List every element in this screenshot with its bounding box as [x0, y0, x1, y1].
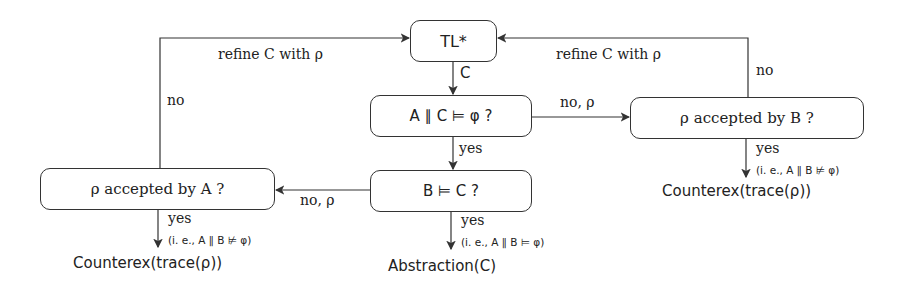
node-check-ac: A ∥ C ⊨ φ ?: [370, 95, 532, 137]
outcome-counterex-left: Counterex(trace(ρ)): [73, 254, 222, 272]
outcome-abstraction: Abstraction(C): [388, 257, 496, 275]
node-label: TL*: [440, 32, 467, 51]
edge-label-a-no: no: [167, 92, 184, 108]
node-label: ρ accepted by B ?: [680, 109, 814, 127]
edge-label-refine-right: refine C with ρ: [556, 46, 661, 62]
edge-label-b-no: no, ρ: [300, 192, 335, 208]
edge-label-bc-yes: yes: [461, 212, 484, 228]
edge-label-c: C: [460, 64, 470, 82]
edge-note-bacc-yes: (i. e., A ∥ B ⊭ φ): [756, 164, 839, 176]
node-label: A ∥ C ⊨ φ ?: [410, 107, 493, 125]
edge-label-ac-no: no, ρ: [560, 94, 595, 110]
outcome-counterex-right: Counterex(trace(ρ)): [662, 182, 811, 200]
node-check-b: B ⊨ C ?: [370, 170, 532, 212]
node-accepted-b: ρ accepted by B ?: [630, 97, 864, 139]
edge-note-bc-yes: (i. e., A ∥ B ⊨ φ): [461, 236, 544, 248]
edge-label-refine-left: refine C with ρ: [218, 46, 323, 62]
edge-label-bacc-no: no: [756, 62, 773, 78]
node-tl-star: TL*: [410, 20, 497, 62]
edge-label-bacc-yes: yes: [756, 140, 779, 156]
edge-note-a-yes: (i. e., A ∥ B ⊭ φ): [168, 234, 251, 246]
node-label: B ⊨ C ?: [423, 182, 479, 200]
node-accepted-a: ρ accepted by A ?: [40, 168, 275, 210]
edge-label-a-yes: yes: [168, 210, 191, 226]
flowchart: TL* A ∥ C ⊨ φ ? B ⊨ C ? ρ accepted by B …: [0, 0, 919, 298]
edge-label-ac-yes: yes: [459, 140, 482, 156]
node-label: ρ accepted by A ?: [91, 180, 225, 198]
